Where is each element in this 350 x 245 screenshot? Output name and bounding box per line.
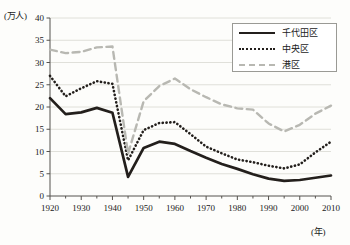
svg-text:2010: 2010 <box>322 203 341 213</box>
legend-item-chuo: 中央区 <box>233 41 336 56</box>
population-line-chart: (万人) (年) 0510152025303540 19201930194019… <box>0 0 350 245</box>
svg-text:0: 0 <box>40 191 45 201</box>
y-axis-tick-labels: 0510152025303540 <box>35 13 45 201</box>
svg-text:1990: 1990 <box>260 203 279 213</box>
svg-text:1970: 1970 <box>197 203 216 213</box>
svg-text:5: 5 <box>40 169 45 179</box>
svg-text:1980: 1980 <box>228 203 247 213</box>
chart-legend: 千代田区 中央区 港区 <box>232 23 337 72</box>
svg-text:1940: 1940 <box>103 203 122 213</box>
dotted-line-swatch <box>239 44 275 54</box>
legend-item-chiyoda: 千代田区 <box>233 25 336 40</box>
series-line <box>50 76 331 169</box>
svg-text:35: 35 <box>35 35 45 45</box>
svg-text:1930: 1930 <box>72 203 91 213</box>
svg-text:1950: 1950 <box>135 203 154 213</box>
legend-label: 港区 <box>282 58 300 71</box>
svg-text:2000: 2000 <box>291 203 310 213</box>
svg-text:1960: 1960 <box>166 203 185 213</box>
svg-text:1920: 1920 <box>41 203 60 213</box>
svg-text:25: 25 <box>35 80 45 90</box>
legend-label: 中央区 <box>282 42 309 55</box>
solid-line-swatch <box>239 28 275 38</box>
svg-text:20: 20 <box>35 102 45 112</box>
legend-item-minato: 港区 <box>233 57 336 72</box>
series-line <box>50 98 331 181</box>
svg-text:40: 40 <box>35 13 45 23</box>
legend-label: 千代田区 <box>282 26 318 39</box>
svg-text:10: 10 <box>35 147 45 157</box>
dashed-line-swatch <box>239 60 275 70</box>
svg-text:15: 15 <box>35 124 45 134</box>
svg-text:30: 30 <box>35 58 45 68</box>
x-axis-tick-labels: 1920193019401950196019701980199020002010 <box>41 203 341 213</box>
